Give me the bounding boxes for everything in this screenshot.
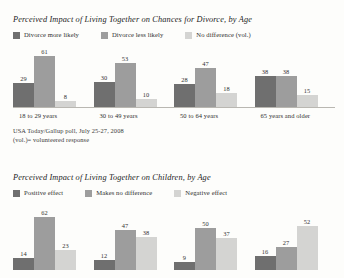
bar-makes-no-difference: 47 [115,204,136,270]
x-axis-line [13,107,335,108]
bar-rect [34,217,55,270]
bar-group-50-64: 9 50 37 [174,204,255,270]
source-line: (vol.)= volunteered response [13,136,344,145]
bar-value: 38 [283,68,290,75]
source-note-divorce: USA Today/Gallup poll, July 25-27, 2008 … [0,127,344,144]
bar-divorce-more-likely: 30 [94,46,115,108]
bar-rect [216,238,237,270]
chart-panel-children: Perceived Impact of Living Together on C… [0,172,344,270]
plot-area-divorce: 29 61 8 30 [0,46,344,108]
legend-item-divorce-less-likely: Divorce less likely [101,31,163,39]
bar-value: 27 [283,239,290,246]
bar-value: 9 [183,254,186,261]
bar-rect [255,76,276,108]
bar-rect [195,68,216,108]
bar-value: 62 [41,209,48,216]
bar-value: 15 [304,87,311,94]
legend-item-negative-effect: Negative effect [174,189,227,197]
bar-no-difference: 8 [55,46,76,108]
bar-value: 29 [20,75,27,82]
bar-value: 50 [202,220,209,227]
legend-item-positive-effect: Positive effect [13,189,63,197]
bar-value: 16 [262,248,269,255]
bar-rect [276,247,297,270]
bar-group-50-64: 28 47 18 [174,46,255,108]
bar-rect [174,84,195,108]
legend-label: Positive effect [24,189,63,197]
bar-rect [115,63,136,108]
bar-divorce-less-likely: 38 [276,46,297,108]
bar-divorce-more-likely: 38 [255,46,276,108]
bar-divorce-less-likely: 47 [195,46,216,108]
legend-swatch-icon [174,190,181,197]
legend-swatch-icon [185,32,192,39]
bar-rect [255,256,276,270]
bar-value: 28 [181,76,188,83]
bar-value: 8 [64,93,67,100]
bar-rect [174,262,195,270]
bar-rect [94,260,115,270]
legend-label: Divorce more likely [24,31,79,39]
chart-title-divorce: Perceived Impact of Living Together on C… [0,14,344,25]
source-line: USA Today/Gallup poll, July 25-27, 2008 [13,127,344,136]
legend-item-makes-no-difference: Makes no difference [85,189,152,197]
bar-negative-effect: 52 [297,204,318,270]
bar-value: 23 [62,242,69,249]
legend-label: Divorce less likely [112,31,163,39]
legend-item-no-difference: No difference (vol.) [185,31,250,39]
bar-rect [55,250,76,270]
bar-rect [276,76,297,108]
bar-value: 30 [101,74,108,81]
legend-swatch-icon [101,32,108,39]
bar-rect [297,226,318,270]
bar-rect [216,93,237,108]
bar-value: 47 [202,60,209,67]
bar-divorce-less-likely: 53 [115,46,136,108]
bar-no-difference: 10 [136,46,157,108]
bar-value: 47 [122,222,129,229]
bar-negative-effect: 23 [55,204,76,270]
bar-rect [136,237,157,270]
legend-swatch-icon [13,190,20,197]
bar-groups: 14 62 23 12 [13,204,335,270]
legend-label: Negative effect [185,189,227,197]
bar-rect [195,228,216,270]
bar-rect [13,83,34,108]
chart-panel-divorce: Perceived Impact of Living Together on C… [0,14,344,144]
category-label: 30 to 49 years [94,112,175,119]
legend-label: Makes no difference [96,189,152,197]
legend-swatch-icon [13,32,20,39]
plot-area-children: 14 62 23 12 [0,204,344,270]
bar-negative-effect: 37 [216,204,237,270]
legend-item-divorce-more-likely: Divorce more likely [13,31,79,39]
bar-group-18-29: 29 61 8 [13,46,94,108]
bar-group-30-49: 12 47 38 [94,204,175,270]
bar-negative-effect: 38 [136,204,157,270]
bar-positive-effect: 12 [94,204,115,270]
chart-legend-divorce: Divorce more likely Divorce less likely … [0,30,344,40]
bar-value: 12 [101,252,108,259]
bar-rect [13,258,34,270]
category-label: 18 to 29 years [13,112,94,119]
chart-title-children: Perceived Impact of Living Together on C… [0,172,344,183]
bar-rect [34,56,55,108]
bar-value: 37 [223,230,230,237]
bar-no-difference: 18 [216,46,237,108]
bar-group-65-plus: 38 38 15 [255,46,336,108]
bar-group-18-29: 14 62 23 [13,204,94,270]
bar-positive-effect: 9 [174,204,195,270]
bar-divorce-more-likely: 29 [13,46,34,108]
bar-makes-no-difference: 50 [195,204,216,270]
category-labels-divorce: 18 to 29 years 30 to 49 years 50 to 64 y… [0,112,344,119]
bar-divorce-more-likely: 28 [174,46,195,108]
chart-legend-children: Positive effect Makes no difference Nega… [0,188,344,198]
bar-value: 52 [304,218,311,225]
bar-group-30-49: 30 53 10 [94,46,175,108]
bar-value: 53 [122,55,129,62]
bar-makes-no-difference: 62 [34,204,55,270]
bar-rect [94,82,115,108]
bar-group-65-plus: 16 27 52 [255,204,336,270]
bar-groups: 29 61 8 30 [13,46,335,108]
bar-value: 14 [20,250,27,257]
bar-value: 61 [41,48,48,55]
